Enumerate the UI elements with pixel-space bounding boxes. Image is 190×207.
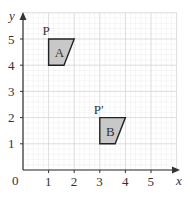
x-axis-label: x (175, 173, 182, 188)
x-tick-label: 5 (148, 174, 155, 189)
x-tick-label: 4 (122, 174, 129, 189)
tick-labels: 1234512345 (8, 32, 154, 190)
shape-label: B (106, 124, 115, 139)
y-tick-label: 5 (8, 32, 15, 47)
x-tick-label: 2 (71, 174, 78, 189)
point-label: P′ (94, 102, 104, 117)
shape-label: A (55, 45, 65, 60)
x-tick-label: 3 (96, 174, 103, 189)
y-tick-label: 4 (8, 58, 15, 73)
y-tick-label: 1 (8, 136, 15, 151)
grid-plot: APBP′ x y 0 1234512345 (0, 0, 190, 207)
y-tick-label: 2 (8, 110, 15, 125)
coordinate-diagram: APBP′ x y 0 1234512345 (0, 0, 190, 207)
y-axis-label: y (7, 8, 15, 23)
y-tick-label: 3 (8, 84, 15, 99)
point-label: P (43, 23, 50, 38)
origin-label: 0 (12, 173, 19, 188)
shapes: APBP′ (43, 23, 126, 144)
x-tick-label: 1 (45, 174, 52, 189)
